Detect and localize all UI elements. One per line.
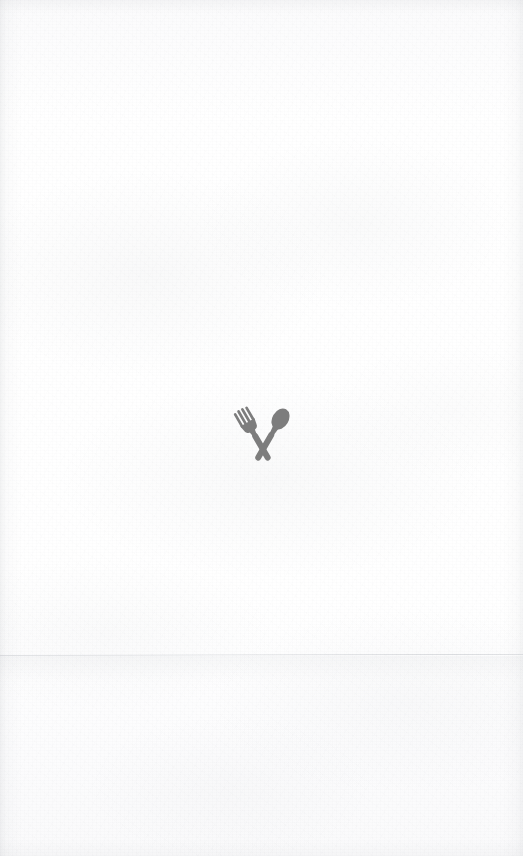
fork-and-spoon-crossed-icon	[231, 399, 293, 465]
paper-fold-line	[0, 653, 523, 656]
menu-page: Crossed fork and spoon	[0, 0, 523, 856]
paper-fold-shadow	[0, 656, 523, 682]
logo-container: Crossed fork and spoon	[0, 399, 523, 465]
